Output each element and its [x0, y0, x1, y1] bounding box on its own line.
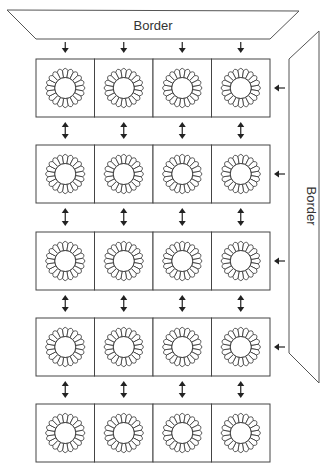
double-arrow-icon — [179, 208, 186, 226]
double-arrow-icon — [120, 295, 127, 312]
double-arrow-icon — [237, 295, 244, 312]
double-arrow-icon — [237, 208, 244, 226]
border-grid-diagram: Border Border — [0, 0, 333, 476]
left-arrow-icon — [274, 344, 285, 351]
grid-cell — [95, 318, 154, 376]
grid-cell — [36, 318, 95, 376]
grid-cell — [153, 404, 212, 462]
double-arrow-icon — [62, 122, 69, 139]
grid-cell — [95, 232, 154, 290]
grid-cell — [95, 145, 154, 203]
down-arrow-icon — [120, 42, 127, 53]
block-row — [36, 145, 270, 203]
block-grid — [36, 59, 270, 462]
down-arrow-icon — [179, 42, 186, 53]
grid-cell — [36, 59, 95, 117]
left-arrow-icon — [274, 171, 285, 178]
grid-cell — [212, 59, 271, 117]
grid-cell — [153, 59, 212, 117]
right-border-label: Border — [304, 186, 319, 226]
double-arrow-icon — [237, 122, 244, 139]
double-arrow-icon — [179, 122, 186, 139]
grid-cell — [153, 232, 212, 290]
double-arrow-icon — [120, 208, 127, 226]
grid-cell — [153, 145, 212, 203]
double-arrow-icon — [62, 295, 69, 312]
double-arrow-icon — [179, 295, 186, 312]
double-arrow-icon — [237, 381, 244, 398]
double-arrow-icon — [120, 381, 127, 398]
double-arrow-icon — [62, 381, 69, 398]
top-border: Border — [7, 10, 299, 39]
left-arrow-icon — [274, 258, 285, 265]
right-border: Border — [289, 31, 319, 383]
grid-cell — [212, 145, 271, 203]
grid-cell — [36, 232, 95, 290]
top-border-label: Border — [133, 18, 173, 33]
left-arrow-icon — [274, 85, 285, 92]
down-arrow-icon — [62, 42, 69, 53]
grid-cell — [95, 59, 154, 117]
block-row — [36, 404, 270, 462]
grid-cell — [212, 232, 271, 290]
double-arrow-icon — [120, 122, 127, 139]
double-arrow-icon — [179, 381, 186, 398]
block-row — [36, 232, 270, 290]
grid-cell — [153, 318, 212, 376]
grid-cell — [212, 318, 271, 376]
grid-cell — [212, 404, 271, 462]
down-arrow-icon — [237, 42, 244, 53]
block-row — [36, 59, 270, 117]
grid-cell — [95, 404, 154, 462]
block-row — [36, 318, 270, 376]
grid-cell — [36, 145, 95, 203]
double-arrow-icon — [62, 208, 69, 226]
grid-cell — [36, 404, 95, 462]
